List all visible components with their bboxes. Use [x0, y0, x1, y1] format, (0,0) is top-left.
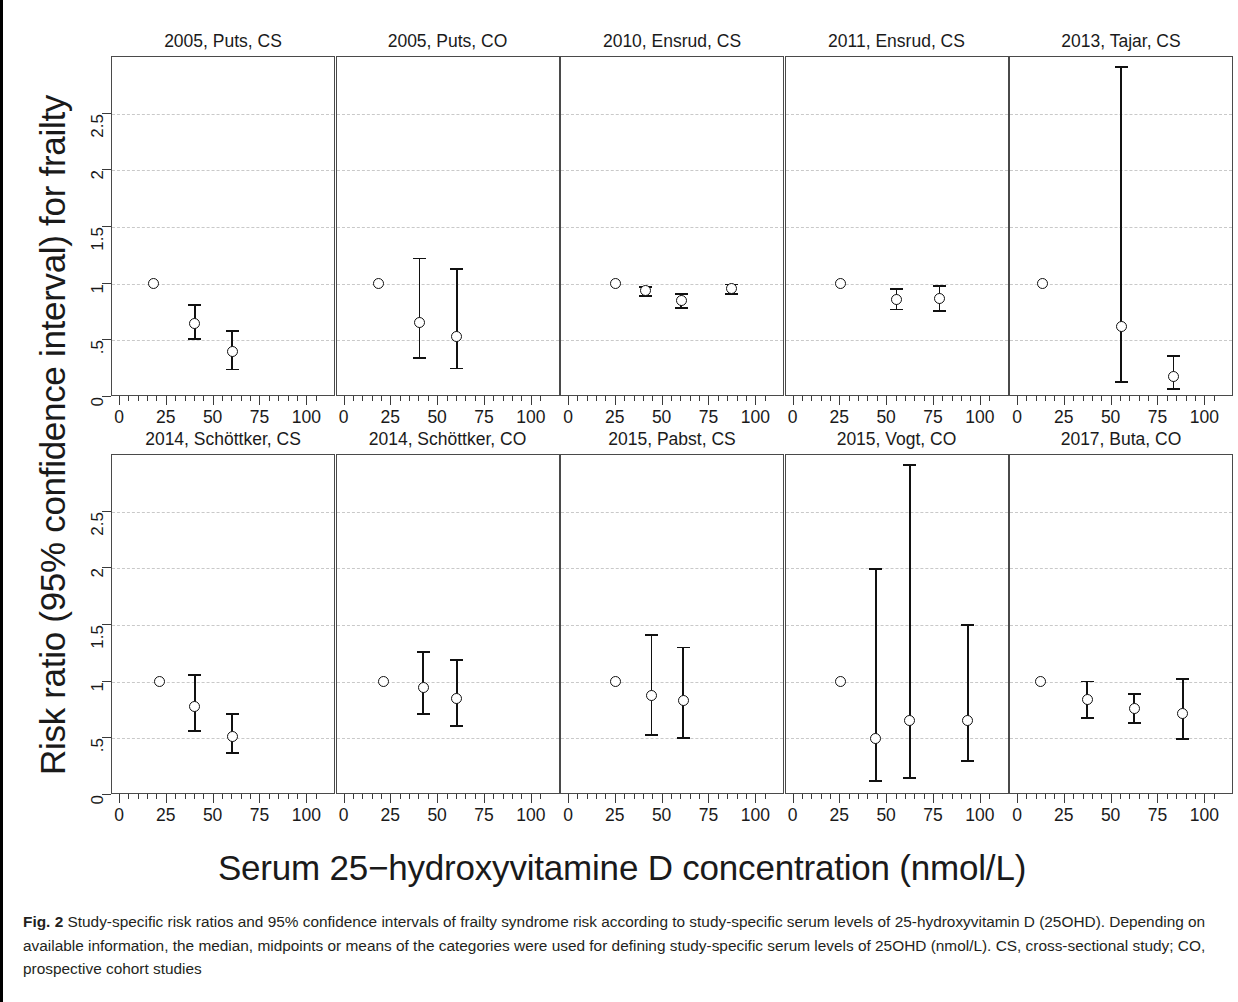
x-tick-major — [1157, 396, 1158, 405]
x-tick-label: 50 — [876, 805, 895, 826]
gridline — [337, 170, 559, 171]
x-tick-minor — [680, 794, 681, 799]
ci-upper-cap — [1128, 693, 1141, 695]
caption-label: Fig. 2 — [23, 913, 63, 930]
gridline — [561, 738, 783, 739]
x-tick-minor — [802, 794, 803, 799]
x-tick-minor — [746, 396, 747, 401]
x-tick-label: 75 — [474, 805, 493, 826]
marker-circle — [934, 293, 945, 304]
x-tick-minor — [727, 396, 728, 401]
x-tick-minor — [1167, 396, 1168, 401]
x-tick-major — [568, 794, 569, 803]
gridline — [337, 682, 559, 683]
x-tick-label: 0 — [1012, 407, 1022, 428]
x-tick-minor — [493, 794, 494, 799]
x-tick-minor — [362, 794, 363, 799]
panel-4: 2011, Ensrud, CS0255075100 — [785, 28, 1009, 428]
x-tick-minor — [643, 396, 644, 401]
x-tick-major — [119, 396, 120, 405]
x-axis: 0255075100 — [111, 794, 335, 834]
x-tick-major — [1064, 396, 1065, 405]
x-tick-minor — [1101, 794, 1102, 799]
ci-upper-cap — [869, 568, 882, 570]
gridline — [337, 114, 559, 115]
x-tick-minor — [952, 794, 953, 799]
x-tick-minor — [896, 396, 897, 401]
x-tick-major — [213, 794, 214, 803]
x-tick-major — [886, 794, 887, 803]
x-tick-minor — [156, 396, 157, 401]
x-tick-minor — [914, 396, 915, 401]
gridline — [337, 340, 559, 341]
x-tick-minor — [1214, 396, 1215, 401]
x-tick-minor — [671, 396, 672, 401]
x-tick-minor — [231, 794, 232, 799]
ci-lower-cap — [1115, 381, 1128, 383]
panel-title: 2011, Ensrud, CS — [785, 28, 1009, 54]
x-tick-major — [662, 794, 663, 803]
x-tick-label: 0 — [114, 805, 124, 826]
ci-upper-cap — [645, 634, 658, 636]
ci-lower-cap — [1167, 388, 1180, 390]
x-tick-minor — [1195, 794, 1196, 799]
x-tick-major — [839, 396, 840, 405]
x-tick-major — [839, 794, 840, 803]
x-tick-minor — [858, 794, 859, 799]
x-tick-label: 25 — [1054, 805, 1073, 826]
x-tick-label: 75 — [474, 407, 493, 428]
x-tick-minor — [297, 794, 298, 799]
ci-upper-cap — [450, 268, 463, 270]
panel-2: 2005, Puts, CO0255075100 — [336, 28, 560, 428]
x-tick-minor — [821, 396, 822, 401]
x-tick-major — [306, 794, 307, 803]
gridline — [337, 625, 559, 626]
x-tick-minor — [624, 396, 625, 401]
gridline — [561, 568, 783, 569]
x-tick-minor — [503, 794, 504, 799]
marker-circle — [891, 294, 902, 305]
x-tick-minor — [652, 396, 653, 401]
x-tick-minor — [905, 794, 906, 799]
x-tick-minor — [924, 396, 925, 401]
marker-circle — [189, 318, 200, 329]
x-tick-major — [933, 794, 934, 803]
confidence-interval-line — [651, 634, 653, 734]
marker-circle — [962, 715, 973, 726]
x-tick-major — [437, 794, 438, 803]
x-tick-label: 100 — [741, 407, 770, 428]
x-tick-minor — [353, 794, 354, 799]
marker-circle — [414, 317, 425, 328]
ci-lower-cap — [450, 725, 463, 727]
gridline — [1010, 625, 1232, 626]
x-tick-label: 0 — [1012, 805, 1022, 826]
panel-1: 2005, Puts, CS0.511.522.50255075100 — [111, 28, 335, 428]
x-tick-minor — [1120, 794, 1121, 799]
x-tick-major — [484, 396, 485, 405]
x-tick-label: 25 — [605, 407, 624, 428]
ci-upper-cap — [188, 674, 201, 676]
x-tick-label: 50 — [652, 805, 671, 826]
x-tick-major — [615, 396, 616, 405]
gridline — [561, 340, 783, 341]
x-tick-minor — [278, 396, 279, 401]
ci-lower-cap — [417, 713, 430, 715]
x-tick-minor — [316, 396, 317, 401]
x-tick-minor — [222, 396, 223, 401]
plot-area — [1009, 56, 1233, 396]
x-tick-minor — [128, 794, 129, 799]
x-tick-minor — [400, 396, 401, 401]
panel-10: 2017, Buta, CO0255075100 — [1009, 426, 1233, 826]
marker-circle — [1035, 676, 1046, 687]
x-tick-minor — [194, 794, 195, 799]
x-tick-major — [1111, 396, 1112, 405]
x-tick-minor — [849, 794, 850, 799]
x-tick-label: 0 — [788, 805, 798, 826]
y-tick-label: 2.5 — [88, 512, 108, 536]
x-tick-minor — [418, 794, 419, 799]
x-tick-minor — [1167, 794, 1168, 799]
x-tick-minor — [353, 396, 354, 401]
gridline — [786, 738, 1008, 739]
ci-lower-cap — [645, 734, 658, 736]
plot-area — [336, 454, 560, 794]
